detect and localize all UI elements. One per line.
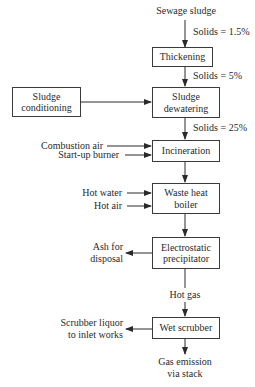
sludge-conditioning-label-1: Sludge bbox=[33, 91, 61, 103]
waste-heat-boiler-label-2: boiler bbox=[174, 199, 197, 211]
gas-emission-label-2: via stack bbox=[145, 368, 225, 380]
solids-5-label: Solids = 5% bbox=[193, 70, 242, 82]
input-sewage-sludge-label: Sewage sludge bbox=[150, 5, 222, 17]
electrostatic-precipitator-node: Electrostatic precipitator bbox=[152, 237, 220, 269]
ash-disposal-label-2: disposal bbox=[60, 253, 123, 265]
waste-heat-boiler-node: Waste heat boiler bbox=[152, 183, 220, 214]
electrostatic-precipitator-label-1: Electrostatic bbox=[161, 242, 211, 254]
thickening-label: Thickening bbox=[160, 51, 206, 63]
sludge-conditioning-node: Sludge conditioning bbox=[12, 87, 81, 117]
sludge-dewatering-label-1: Sludge bbox=[172, 91, 200, 103]
thickening-node: Thickening bbox=[152, 47, 213, 67]
electrostatic-precipitator-label-2: precipitator bbox=[163, 253, 209, 265]
hot-water-label: Hot water bbox=[60, 187, 122, 199]
waste-heat-boiler-label-1: Waste heat bbox=[164, 187, 207, 199]
sludge-dewatering-label-2: dewatering bbox=[164, 103, 208, 115]
scrubber-liquor-label: Scrubber liquor to inlet works bbox=[30, 317, 123, 341]
hot-gas-label: Hot gas bbox=[160, 289, 210, 301]
startup-burner-label: Start-up burner bbox=[20, 149, 119, 161]
incineration-node: Incineration bbox=[152, 140, 220, 162]
incineration-label: Incineration bbox=[162, 145, 210, 157]
hot-air-label: Hot air bbox=[60, 200, 122, 212]
solids-1-5-label: Solids = 1.5% bbox=[193, 26, 249, 38]
solids-25-label: Solids = 25% bbox=[193, 122, 247, 134]
gas-emission-label-1: Gas emission bbox=[145, 356, 225, 368]
wet-scrubber-label: Wet scrubber bbox=[160, 322, 213, 334]
ash-disposal-label: Ash for disposal bbox=[60, 241, 123, 265]
gas-emission-label: Gas emission via stack bbox=[145, 356, 225, 380]
scrubber-liquor-label-2: to inlet works bbox=[30, 329, 123, 341]
wet-scrubber-node: Wet scrubber bbox=[152, 317, 220, 339]
sludge-dewatering-node: Sludge dewatering bbox=[152, 87, 220, 118]
ash-disposal-label-1: Ash for bbox=[60, 241, 123, 253]
sludge-conditioning-label-2: conditioning bbox=[21, 102, 72, 114]
scrubber-liquor-label-1: Scrubber liquor bbox=[30, 317, 123, 329]
